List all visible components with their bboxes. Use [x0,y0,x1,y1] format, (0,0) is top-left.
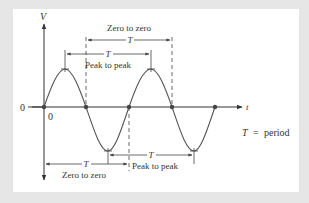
svg-text:T: T [242,127,249,138]
bottom-peak-to-peak-annotation: T Peak to peak [110,150,192,171]
svg-text:Peak to peak: Peak to peak [132,161,178,171]
svg-text:T: T [127,35,133,45]
bottom-zero-to-zero-annotation: T Zero to zero [46,159,127,180]
origin-x-zero-label: 0 [48,111,53,122]
svg-text:Peak to peak: Peak to peak [85,60,131,70]
svg-text:T: T [105,49,111,59]
x-axis-label: t [246,102,249,112]
svg-text:T: T [148,150,154,160]
svg-text:T: T [83,159,89,169]
sine-curve [44,69,215,151]
svg-text:Zero to zero: Zero to zero [62,170,106,180]
period-legend: T = period [242,127,290,138]
top-peak-to-peak-annotation: T Peak to peak [67,49,149,70]
sine-wave-diagram: V t 0 0 Zero to zero T [0,0,309,203]
svg-text:=: = [253,127,259,138]
top-zero-to-zero-annotation: Zero to zero T [88,23,170,45]
svg-text:Zero to zero: Zero to zero [107,23,151,33]
y-axis-label: V [40,11,48,22]
dashed-guides [86,37,172,171]
svg-text:period: period [264,127,290,138]
origin-y-zero-label: 0 [20,102,25,113]
